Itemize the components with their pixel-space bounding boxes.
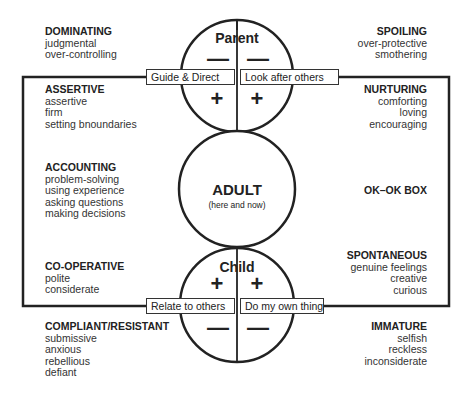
spoiling-title: SPOILING bbox=[358, 26, 427, 38]
assertive-block: ASSERTIVE assertive firm setting bnounda… bbox=[45, 84, 137, 130]
nurturing-title: NURTURING bbox=[364, 84, 427, 96]
spoiling-block: SPOILING over-protective smothering bbox=[358, 26, 427, 61]
adult-title: ADULT bbox=[187, 181, 287, 198]
parent-title: Parent bbox=[197, 30, 277, 46]
accounting-item: making decisions bbox=[45, 208, 126, 220]
spontaneous-title: SPONTANEOUS bbox=[347, 250, 427, 262]
immature-item: reckless bbox=[365, 344, 427, 356]
child-minus-right: — bbox=[247, 317, 267, 339]
immature-title: IMMATURE bbox=[365, 321, 427, 333]
ok-ok-box-label-block: OK–OK BOX bbox=[364, 185, 427, 197]
compliant-item: anxious bbox=[45, 344, 169, 356]
nurturing-block: NURTURING comforting loving encouraging bbox=[364, 84, 427, 130]
spontaneous-block: SPONTANEOUS genuine feelings creative cu… bbox=[347, 250, 427, 296]
compliant-resistant-title: COMPLIANT/RESISTANT bbox=[45, 321, 169, 333]
parent-minus-left: — bbox=[207, 48, 227, 70]
spontaneous-item: curious bbox=[347, 285, 427, 297]
assertive-item: setting bnoundaries bbox=[45, 119, 137, 131]
nurturing-item: encouraging bbox=[364, 119, 427, 131]
parent-plus-left: + bbox=[207, 88, 227, 110]
dominating-item: over-controlling bbox=[45, 49, 117, 61]
accounting-title: ACCOUNTING bbox=[45, 162, 126, 174]
cooperative-item: considerate bbox=[45, 284, 124, 296]
immature-item: inconsiderate bbox=[365, 356, 427, 368]
child-minus-left: — bbox=[207, 317, 227, 339]
cooperative-block: CO-OPERATIVE polite considerate bbox=[45, 261, 124, 296]
relate-to-others-label: Relate to others bbox=[146, 298, 235, 314]
ok-ok-box-label: OK–OK BOX bbox=[364, 185, 427, 197]
do-my-own-thing-label: Do my own thing bbox=[240, 298, 324, 314]
accounting-block: ACCOUNTING problem-solving using experie… bbox=[45, 162, 126, 220]
child-plus-right: + bbox=[247, 273, 267, 295]
compliant-item: defiant bbox=[45, 367, 169, 379]
look-after-others-label: Look after others bbox=[240, 69, 339, 85]
parent-minus-right: — bbox=[247, 48, 267, 70]
compliant-resistant-block: COMPLIANT/RESISTANT submissive anxious r… bbox=[45, 321, 169, 379]
cooperative-title: CO-OPERATIVE bbox=[45, 261, 124, 273]
immature-block: IMMATURE selfish reckless inconsiderate bbox=[365, 321, 427, 367]
accounting-item: using experience bbox=[45, 185, 126, 197]
adult-subtitle: (here and now) bbox=[187, 200, 287, 210]
guide-direct-label: Guide & Direct bbox=[146, 69, 235, 85]
child-plus-left: + bbox=[207, 273, 227, 295]
dominating-title: DOMINATING bbox=[45, 26, 117, 38]
nurturing-item: loving bbox=[364, 107, 427, 119]
assertive-title: ASSERTIVE bbox=[45, 84, 137, 96]
spontaneous-item: creative bbox=[347, 273, 427, 285]
parent-plus-right: + bbox=[247, 88, 267, 110]
dominating-block: DOMINATING judgmental over-controlling bbox=[45, 26, 117, 61]
assertive-item: firm bbox=[45, 107, 137, 119]
spoiling-item: smothering bbox=[358, 49, 427, 61]
